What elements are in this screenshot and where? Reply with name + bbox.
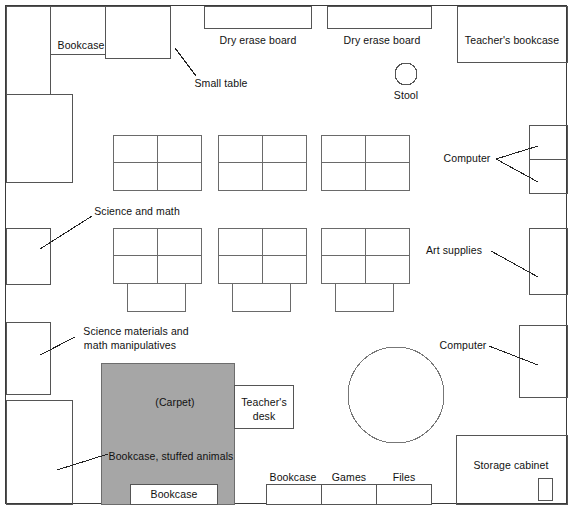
floor-plan-vector-layer	[0, 0, 572, 509]
label-bookcase-stuffed-animals: Bookcase, stuffed animals	[109, 450, 234, 463]
label-teachers-bookcase: Teacher's bookcase	[465, 34, 559, 47]
files-bottom-unit	[376, 484, 431, 504]
leader-science-and-math	[40, 216, 92, 249]
shelf-left-3-unit	[6, 228, 50, 284]
label-science-materials-line1: Science materials and	[83, 325, 188, 338]
leader-science-materials	[40, 337, 75, 355]
label-computer-lower-right: Computer	[440, 339, 487, 352]
bottom-wall-units	[266, 484, 431, 504]
shelf-left-4-unit	[6, 322, 50, 394]
label-science-materials-line2: math manipulatives	[84, 339, 176, 352]
desk-cluster-6-shape	[321, 228, 409, 311]
label-computer-top-right: Computer	[444, 152, 491, 165]
desk-cluster-4-attached	[127, 283, 185, 311]
label-art-supplies: Art supplies	[426, 244, 482, 257]
computer-top-2-unit	[529, 159, 567, 193]
shelf-left-5-unit	[6, 400, 72, 504]
bookcase-bottom-unit	[266, 484, 321, 504]
label-teachers-desk-line1: Teacher's	[241, 396, 287, 409]
desk-cluster-2-shape	[218, 135, 306, 190]
computer-top-1-unit	[529, 125, 567, 159]
desk-cluster-5-shape	[218, 228, 306, 311]
desk-cluster-1-shape	[113, 135, 201, 190]
label-bookcase-top-left: Bookcase	[58, 39, 105, 52]
small-table-unit	[105, 6, 170, 58]
label-bookcase-carpet-bottom: Bookcase	[151, 488, 198, 501]
leader-small-table	[175, 48, 196, 76]
leader-computer-top-a	[496, 146, 538, 159]
stool-shape	[395, 63, 417, 85]
label-small-table: Small table	[194, 77, 247, 90]
shelf-left-2-unit	[6, 94, 72, 182]
right-wall-units	[456, 125, 567, 504]
label-storage-cabinet: Storage cabinet	[473, 459, 548, 472]
label-dry-erase-board-1: Dry erase board	[220, 34, 297, 47]
desk-cluster-6-attached	[335, 283, 393, 311]
dry-erase-board-1-unit	[204, 6, 311, 28]
games-bottom-unit	[321, 484, 376, 504]
label-files: Files	[393, 471, 416, 484]
leader-computer-top-b	[496, 159, 538, 182]
label-carpet: (Carpet)	[155, 396, 194, 409]
label-teachers-desk-line2: desk	[253, 410, 276, 423]
classroom-floor-plan: Bookcase Small table Dry erase board Dry…	[0, 0, 572, 509]
round-table-shape	[348, 347, 444, 443]
label-stool: Stool	[394, 89, 418, 102]
desk-cluster-row-1	[113, 135, 409, 190]
leader-bookcase-stuffed	[57, 454, 108, 470]
label-science-and-math: Science and math	[94, 205, 180, 218]
dry-erase-board-2-unit	[327, 6, 431, 28]
bookcase-left-upper-unit	[6, 6, 50, 94]
desk-cluster-row-2	[113, 228, 409, 311]
storage-cabinet-inner-box	[538, 478, 552, 500]
art-supplies-unit	[529, 228, 567, 294]
label-bookcase-bottom: Bookcase	[270, 471, 317, 484]
label-games: Games	[332, 471, 366, 484]
leader-computer-lower	[489, 346, 538, 365]
label-dry-erase-board-2: Dry erase board	[344, 34, 421, 47]
computer-lower-unit	[519, 325, 567, 397]
left-wall-units	[6, 6, 72, 504]
desk-cluster-4-shape	[113, 228, 201, 311]
leader-art-supplies	[491, 251, 538, 277]
desk-cluster-5-attached	[232, 283, 290, 311]
carpet-shape	[101, 363, 234, 504]
desk-cluster-3-shape	[321, 135, 409, 190]
